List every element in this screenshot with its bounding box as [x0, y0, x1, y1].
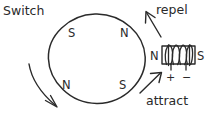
negative-terminal-sign: − [182, 71, 191, 84]
diagram-canvas: S N N S Switch repel attract [0, 0, 212, 115]
positive-terminal-sign: + [166, 71, 175, 84]
attract-arrow [140, 73, 162, 94]
rotor-pole-top-left: S [68, 26, 75, 40]
solenoid-pole-north: N [150, 49, 159, 63]
rotor-pole-bottom-left: N [62, 78, 71, 92]
rotor-pole-top-right: N [120, 26, 129, 40]
solenoid: N S + − [150, 45, 204, 84]
repel-label: repel [156, 2, 188, 17]
switch-label: Switch [3, 3, 44, 18]
rotation-arrow [29, 64, 57, 107]
motor-principle-diagram: S N N S Switch repel attract [0, 0, 212, 115]
rotor-pole-bottom-right: S [119, 78, 126, 92]
solenoid-pole-south: S [197, 49, 204, 63]
attract-label: attract [146, 93, 188, 108]
solenoid-windings [165, 45, 192, 64]
